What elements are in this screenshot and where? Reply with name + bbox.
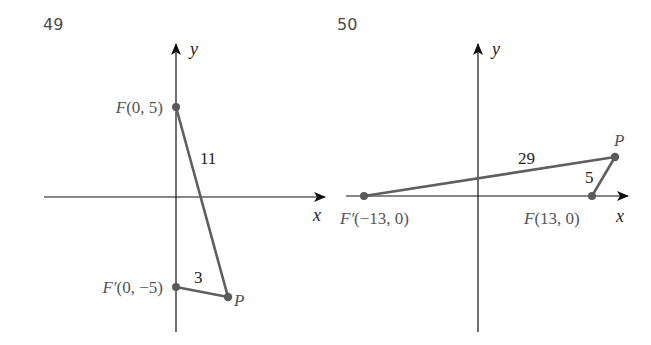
y-axis-label-50: y bbox=[490, 39, 500, 59]
point-P-50 bbox=[611, 153, 619, 161]
y-axis-label-49: y bbox=[188, 39, 198, 59]
diagram-49: x y F(0, 5) F′(0, −5) P 11 3 bbox=[44, 39, 325, 332]
segment-F-P-50 bbox=[592, 157, 615, 196]
label-F-50: F(13, 0) bbox=[523, 209, 580, 228]
length-label-29: 29 bbox=[518, 149, 535, 168]
length-label-5: 5 bbox=[585, 168, 594, 187]
point-F-49 bbox=[172, 103, 180, 111]
label-Fprime-50: F′(−13, 0) bbox=[339, 209, 409, 228]
diagrams-canvas: x y F(0, 5) F′(0, −5) P 11 3 x y F′(−13,… bbox=[0, 0, 651, 345]
length-label-3: 3 bbox=[194, 268, 203, 287]
label-F-49: F(0, 5) bbox=[115, 98, 163, 117]
point-Fprime-50 bbox=[360, 192, 368, 200]
x-axis-label-50: x bbox=[615, 206, 624, 226]
label-Fprime-49: F′(0, −5) bbox=[101, 278, 163, 297]
segment-Fprime-P-50 bbox=[364, 157, 615, 196]
point-F-50 bbox=[588, 192, 596, 200]
length-label-11: 11 bbox=[200, 149, 216, 168]
point-Fprime-49 bbox=[172, 283, 180, 291]
diagram-50: x y F′(−13, 0) F(13, 0) P 29 5 bbox=[339, 39, 628, 332]
label-P-49: P bbox=[233, 291, 244, 310]
segment-Fprime-P-49 bbox=[176, 287, 228, 297]
point-P-49 bbox=[224, 293, 232, 301]
x-axis-label-49: x bbox=[312, 205, 321, 225]
label-P-50: P bbox=[613, 131, 624, 150]
